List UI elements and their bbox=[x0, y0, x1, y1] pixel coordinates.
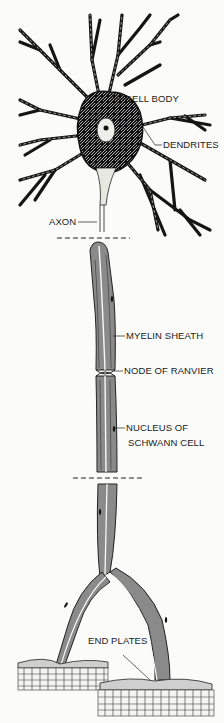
label-dendrites: DENDRITES bbox=[163, 140, 219, 150]
muscle-fibers-right bbox=[98, 679, 214, 716]
label-schwann-cell: SCHWANN CELL bbox=[128, 438, 204, 448]
muscle-fibers-left bbox=[18, 659, 108, 690]
label-cell-body: CELL BODY bbox=[125, 94, 179, 104]
cell-body bbox=[77, 91, 142, 205]
axon-terminal-branches bbox=[55, 484, 170, 680]
label-nucleus-of: NUCLEUS OF bbox=[126, 423, 188, 433]
schwann-nucleus bbox=[113, 426, 115, 432]
neuron-diagram: CELL BODY DENDRITES AXON MYELIN SHEATH N… bbox=[0, 0, 224, 723]
label-myelin-sheath: MYELIN SHEATH bbox=[126, 331, 203, 341]
axon bbox=[100, 205, 104, 232]
label-end-plates: END PLATES bbox=[88, 636, 147, 646]
axon-hillock bbox=[96, 168, 116, 205]
label-node-of-ranvier: NODE OF RANVIER bbox=[124, 366, 214, 376]
label-axon: AXON bbox=[49, 217, 76, 227]
node-of-ranvier bbox=[96, 370, 115, 376]
neuron-illustration bbox=[0, 0, 224, 723]
myelin-sheath bbox=[90, 242, 117, 472]
nucleolus bbox=[104, 126, 109, 131]
